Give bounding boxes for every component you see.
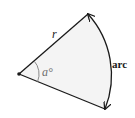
arc-label: arc [112, 58, 127, 70]
angle-label: a° [42, 65, 53, 79]
sector-diagram: r a° arc [0, 0, 135, 118]
vertex-point [17, 72, 21, 76]
radius-label: r [52, 27, 57, 41]
